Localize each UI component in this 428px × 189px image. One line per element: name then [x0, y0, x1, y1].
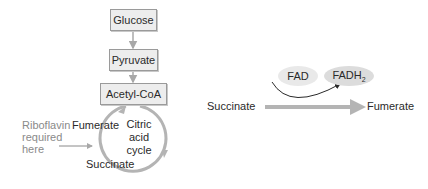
cycle-succinate-label: Succinate [86, 158, 134, 170]
pyruvate-box: Pyruvate [109, 49, 158, 71]
acetylcoa-label: Acetyl-CoA [106, 88, 161, 100]
cycle-label-line1: Citric [124, 118, 154, 131]
fadh2-label: FADH2 [332, 69, 365, 83]
riboflavin-annotation: Riboflavin required here [22, 119, 70, 155]
acetylcoa-box: Acetyl-CoA [100, 83, 167, 105]
fadh2-ellipse: FADH2 [324, 66, 374, 86]
diagram-connectors [0, 0, 428, 189]
fad-ellipse: FAD [278, 66, 318, 86]
cycle-center-label: Citric acid cycle [124, 118, 154, 157]
reaction-substrate-label: Succinate [207, 100, 255, 112]
cycle-label-line2: acid [124, 131, 154, 144]
reaction-product-label: Fumerate [367, 100, 414, 112]
annotation-line2: required [22, 131, 70, 143]
pyruvate-label: Pyruvate [112, 54, 155, 66]
cycle-label-line3: cycle [124, 144, 154, 157]
fadh2-subscript: 2 [362, 76, 366, 83]
annotation-line3: here [22, 143, 70, 155]
annotation-line1: Riboflavin [22, 119, 70, 131]
fadh2-base: FADH [332, 69, 361, 81]
glucose-label: Glucose [113, 14, 153, 26]
cycle-fumerate-label: Fumerate [72, 119, 119, 131]
fad-label: FAD [287, 70, 308, 82]
glucose-box: Glucose [110, 9, 157, 31]
